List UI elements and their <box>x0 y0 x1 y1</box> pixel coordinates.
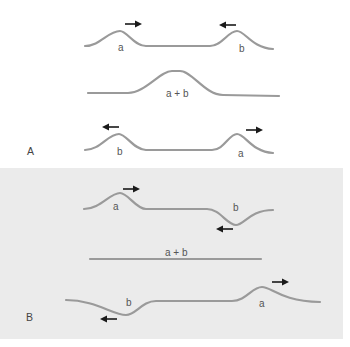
panel-b-destructive: a b a + b b a B <box>0 168 343 339</box>
wave-a-row3 <box>85 134 273 153</box>
arrow-right-icon <box>272 279 289 286</box>
pulse-label-b: b <box>117 146 123 157</box>
panel-label-b: B <box>26 311 33 323</box>
panel-b-diagram: a b a + b b a B <box>0 168 343 339</box>
pulse-label-a: a <box>118 42 124 53</box>
arrow-left-icon <box>216 226 233 233</box>
wave-b-row3 <box>66 287 320 315</box>
panel-a-constructive: a b a + b b a A <box>0 0 350 167</box>
sum-label: a + b <box>166 88 189 99</box>
wave-a-row1 <box>85 31 273 49</box>
arrow-right-icon <box>123 186 140 193</box>
pulse-label-b: b <box>239 43 245 54</box>
pulse-label-a: a <box>113 201 119 212</box>
pulse-label-a: a <box>238 148 244 159</box>
pulse-label-b: b <box>126 297 132 308</box>
arrow-left-icon <box>102 124 119 131</box>
arrow-right-icon <box>125 21 142 28</box>
pulse-label-a: a <box>259 298 265 309</box>
panel-label-a: A <box>27 145 34 157</box>
panel-a-diagram: a b a + b b a A <box>0 0 350 167</box>
pulse-label-b: b <box>233 202 239 213</box>
arrow-left-icon <box>219 22 236 29</box>
sum-label: a + b <box>165 247 188 258</box>
arrow-right-icon <box>246 127 263 134</box>
arrow-left-icon <box>100 316 117 323</box>
